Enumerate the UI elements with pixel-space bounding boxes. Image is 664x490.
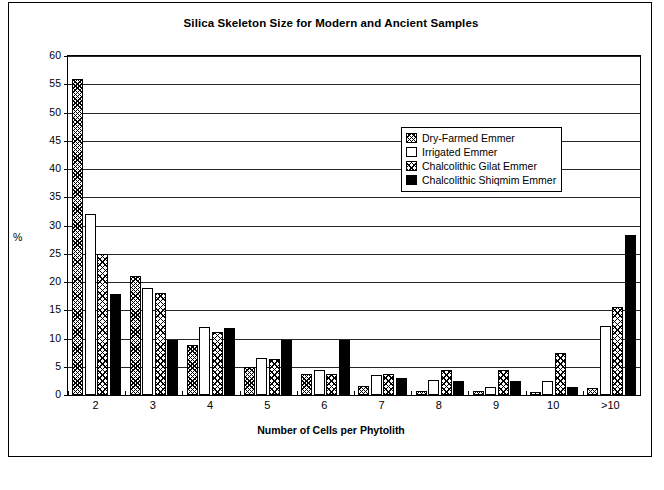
- x-tick-label: 3: [124, 399, 181, 411]
- bar: [281, 340, 292, 395]
- bar: [339, 340, 350, 395]
- bar: [555, 353, 566, 395]
- bar: [269, 359, 280, 395]
- y-tick-label: 30: [35, 220, 61, 230]
- bar: [473, 391, 484, 395]
- bar: [625, 235, 636, 395]
- y-axis-tick-labels: 051015202530354045505560: [27, 55, 61, 396]
- bar-group: [182, 56, 239, 395]
- x-tick-mark: [354, 391, 355, 396]
- bar-group: [526, 56, 583, 395]
- x-tick-mark: [125, 391, 126, 396]
- x-tick-mark: [297, 391, 298, 396]
- bar: [453, 381, 464, 395]
- chart-legend: Dry-Farmed EmmerIrrigated EmmerChalcolit…: [401, 127, 562, 192]
- bar: [212, 332, 223, 395]
- bar-group: [297, 56, 354, 395]
- bar: [224, 328, 235, 395]
- bar: [326, 374, 337, 395]
- x-tick-mark: [468, 391, 469, 396]
- x-tick-mark: [640, 391, 641, 396]
- bar: [485, 387, 496, 395]
- bar: [155, 293, 166, 395]
- legend-item: Irrigated Emmer: [406, 145, 556, 159]
- y-tick-label: 15: [35, 304, 61, 314]
- legend-swatch: [406, 175, 417, 185]
- x-tick-label: 6: [296, 399, 353, 411]
- y-tick-label: 35: [35, 191, 61, 201]
- x-tick-mark: [411, 391, 412, 396]
- bar: [256, 358, 267, 395]
- bar: [441, 370, 452, 395]
- bar-group: [354, 56, 411, 395]
- bar-group: [125, 56, 182, 395]
- bar: [130, 276, 141, 395]
- y-tick-label: 45: [35, 135, 61, 145]
- bar: [428, 380, 439, 395]
- bar: [167, 340, 178, 395]
- bar: [567, 387, 578, 395]
- y-tick-label: 25: [35, 248, 61, 258]
- bar: [542, 381, 553, 395]
- bar: [383, 374, 394, 395]
- x-axis-title: Number of Cells per Phytolith: [9, 424, 653, 436]
- bar: [187, 345, 198, 395]
- bar: [244, 367, 255, 395]
- legend-label: Irrigated Emmer: [422, 146, 497, 158]
- bar-group: [411, 56, 468, 395]
- legend-swatch: [406, 147, 417, 157]
- bar: [199, 327, 210, 395]
- legend-item: Chalcolithic Gilat Emmer: [406, 159, 556, 173]
- y-tick-label: 0: [35, 389, 61, 399]
- bar: [612, 307, 623, 395]
- bar: [97, 254, 108, 395]
- chart-title: Silica Skeleton Size for Modern and Anci…: [9, 17, 653, 29]
- y-tick-label: 5: [35, 361, 61, 371]
- x-tick-label: 5: [239, 399, 296, 411]
- bar: [301, 374, 312, 395]
- legend-item: Chalcolithic Shiqmim Emmer: [406, 173, 556, 187]
- bar: [530, 392, 541, 395]
- bar: [396, 378, 407, 395]
- x-tick-label: 10: [525, 399, 582, 411]
- y-tick-label: 60: [35, 50, 61, 60]
- bar: [587, 388, 598, 395]
- x-tick-mark: [526, 391, 527, 396]
- bar: [600, 326, 611, 395]
- y-tick-label: 50: [35, 107, 61, 117]
- x-tick-label: 2: [67, 399, 124, 411]
- x-tick-mark: [182, 391, 183, 396]
- y-tick-label: 55: [35, 78, 61, 88]
- x-tick-label: 4: [181, 399, 238, 411]
- legend-label: Chalcolithic Shiqmim Emmer: [422, 174, 556, 186]
- x-tick-mark: [240, 391, 241, 396]
- x-tick-label: >10: [582, 399, 639, 411]
- legend-label: Chalcolithic Gilat Emmer: [422, 160, 537, 172]
- y-tick-label: 20: [35, 276, 61, 286]
- legend-swatch: [406, 133, 417, 143]
- bar: [72, 79, 83, 395]
- x-axis-tick-labels: 2345678910>10: [67, 399, 641, 413]
- legend-swatch: [406, 161, 417, 171]
- bar-group: [240, 56, 297, 395]
- bar: [416, 391, 427, 395]
- bar-group: [68, 56, 125, 395]
- x-tick-mark: [68, 391, 69, 396]
- bar: [510, 381, 521, 395]
- plot-area: [67, 55, 641, 396]
- chart-frame: Silica Skeleton Size for Modern and Anci…: [8, 2, 652, 457]
- bar: [85, 214, 96, 395]
- bar: [142, 288, 153, 395]
- y-tick-label: 10: [35, 333, 61, 343]
- bar: [314, 370, 325, 395]
- x-tick-label: 7: [353, 399, 410, 411]
- bar: [110, 294, 121, 395]
- y-tick-label: 40: [35, 163, 61, 173]
- bar-group: [583, 56, 640, 395]
- bar-group: [468, 56, 525, 395]
- bar: [358, 386, 369, 395]
- legend-item: Dry-Farmed Emmer: [406, 131, 556, 145]
- x-tick-label: 9: [467, 399, 524, 411]
- x-tick-label: 8: [410, 399, 467, 411]
- y-axis-title: %: [13, 231, 22, 243]
